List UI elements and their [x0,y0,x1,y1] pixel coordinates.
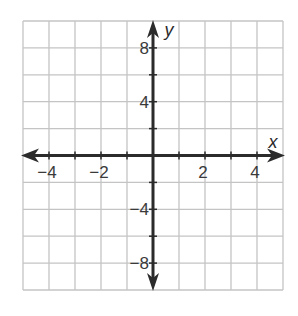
y-tick-label: 4 [140,93,149,112]
x-axis-label: x [268,132,279,152]
x-tick-label: −4 [37,163,56,182]
y-axis-label: y [163,20,175,40]
axes [21,20,285,291]
y-tick-label: −4 [130,200,149,219]
y-tick-label: −8 [130,254,149,273]
coordinate-plane: −4−22484−4−8 x y [0,0,298,316]
x-tick-label: −2 [89,163,108,182]
x-tick-label: 2 [198,163,207,182]
x-tick-label: 4 [250,163,259,182]
y-tick-label: 8 [140,39,149,58]
